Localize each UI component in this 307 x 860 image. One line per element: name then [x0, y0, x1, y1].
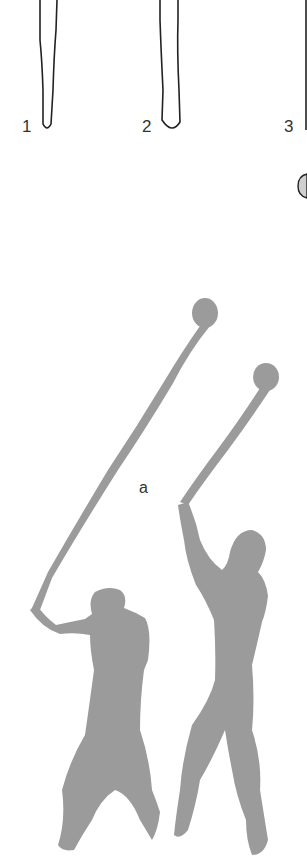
club-shaft-2 — [180, 388, 270, 505]
partial-ball-shape — [298, 174, 307, 198]
figure-left — [30, 588, 160, 851]
club-shaft-1 — [32, 326, 210, 610]
club-head-1 — [192, 298, 218, 328]
silhouette-scene — [30, 298, 279, 855]
scene-label: a — [139, 480, 148, 496]
club-label-2: 2 — [142, 118, 151, 135]
figure-canvas — [0, 0, 307, 860]
club-outline-2 — [160, 0, 180, 128]
club-label-1: 1 — [22, 118, 31, 135]
figure-right — [174, 502, 268, 855]
club-head-2 — [253, 363, 279, 391]
club-label-3: 3 — [284, 118, 293, 135]
club-outline-1 — [40, 0, 57, 128]
